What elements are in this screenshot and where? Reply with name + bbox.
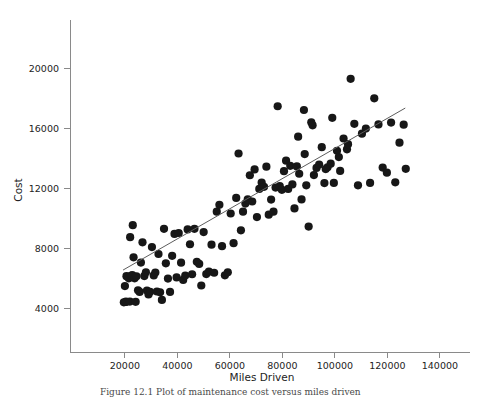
data-point [195, 260, 203, 268]
data-point [224, 268, 232, 276]
data-point [402, 165, 410, 173]
data-point [138, 238, 146, 246]
data-point [229, 239, 237, 247]
data-point [294, 133, 302, 141]
y-tick-label: 12000 [29, 183, 59, 194]
x-tick-label: 80000 [267, 360, 297, 371]
data-point [300, 106, 308, 114]
data-point [318, 143, 326, 151]
data-point [391, 178, 399, 186]
data-point [177, 259, 185, 267]
data-point [164, 275, 172, 283]
data-point [239, 208, 247, 216]
y-tick-label: 20000 [29, 63, 59, 74]
data-point [302, 181, 310, 189]
x-axis-ticks: 20000400006000080000100000120000140000 [110, 352, 458, 371]
data-point [160, 225, 168, 233]
data-point [129, 253, 137, 261]
data-point [280, 167, 288, 175]
data-point [350, 120, 358, 128]
data-point [181, 272, 189, 280]
y-axis-title: Cost [12, 178, 24, 201]
data-point [253, 213, 261, 221]
figure-caption-clip: Figure 12.1 Plot of maintenance cost ver… [0, 386, 502, 402]
data-point [186, 240, 194, 248]
data-point [354, 181, 362, 189]
data-point [126, 233, 134, 241]
data-point [305, 222, 313, 230]
y-tick-label: 4000 [35, 303, 59, 314]
data-point [269, 208, 277, 216]
data-point [330, 179, 338, 187]
data-point [158, 296, 166, 304]
x-tick-label: 100000 [317, 360, 353, 371]
data-point [320, 179, 328, 187]
data-point [207, 241, 215, 249]
x-axis-title: Miles Driven [230, 371, 295, 383]
data-point [166, 288, 174, 296]
data-point [136, 288, 144, 296]
data-point [250, 165, 258, 173]
data-point [336, 167, 344, 175]
x-tick-label: 20000 [110, 360, 140, 371]
data-point [310, 171, 318, 179]
data-point [328, 114, 336, 122]
data-point [210, 269, 218, 277]
data-point [267, 195, 275, 203]
data-point [227, 209, 235, 217]
data-point [322, 165, 330, 173]
data-point [151, 269, 159, 277]
data-point [129, 221, 137, 229]
data-point [335, 153, 343, 161]
data-point [232, 194, 240, 202]
data-point [366, 179, 374, 187]
data-points [120, 75, 410, 307]
scatter-plot: 20000400006000080000100000120000140000 4… [0, 0, 502, 402]
data-point [293, 162, 301, 170]
data-point [301, 150, 309, 158]
y-axis-ticks: 40008000120001600020000 [29, 63, 70, 314]
y-tick-label: 8000 [35, 243, 59, 254]
data-point [262, 163, 270, 171]
x-tick-label: 120000 [369, 360, 405, 371]
data-point [200, 228, 208, 236]
x-tick-label: 140000 [422, 360, 458, 371]
data-point [168, 252, 176, 260]
data-point [400, 121, 408, 129]
data-point [370, 94, 378, 102]
data-point [197, 281, 205, 289]
data-point [383, 169, 391, 177]
regression-line [123, 108, 405, 270]
data-point [142, 268, 150, 276]
data-point [290, 204, 298, 212]
y-tick-label: 16000 [29, 123, 59, 134]
figure-caption: Figure 12.1 Plot of maintenance cost ver… [100, 387, 361, 397]
data-point [274, 102, 282, 110]
x-tick-label: 60000 [215, 360, 245, 371]
data-point [347, 75, 355, 83]
data-point [237, 226, 245, 234]
data-point [148, 243, 156, 251]
x-tick-label: 40000 [162, 360, 192, 371]
data-point [215, 201, 223, 209]
data-point [132, 272, 140, 280]
data-point [288, 180, 296, 188]
data-point [308, 121, 316, 129]
figure-container: 20000400006000080000100000120000140000 4… [0, 0, 502, 402]
data-point [156, 288, 164, 296]
data-point [132, 298, 140, 306]
data-point [121, 282, 129, 290]
data-point [175, 229, 183, 237]
data-point [395, 139, 403, 147]
data-point [297, 195, 305, 203]
data-point [387, 119, 395, 127]
data-point [162, 259, 170, 267]
data-point [188, 270, 196, 278]
data-point [218, 242, 226, 250]
data-point [234, 149, 242, 157]
data-point [248, 197, 256, 205]
